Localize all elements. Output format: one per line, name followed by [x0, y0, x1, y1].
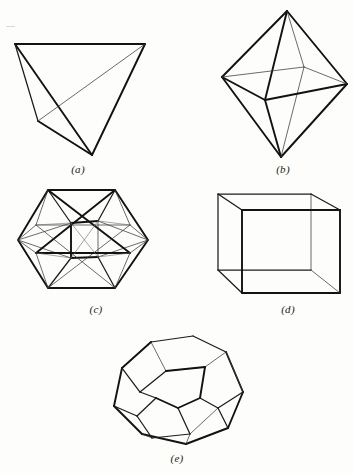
tetrahedron-edges — [15, 44, 145, 155]
caption-octahedron: (b) — [263, 163, 303, 175]
figure-cube — [208, 188, 353, 303]
figure-icosahedron — [12, 183, 162, 298]
figure-dodecahedron — [100, 330, 255, 450]
figure-octahedron — [205, 5, 353, 165]
cube-edges — [218, 194, 340, 293]
icosahedron-edges — [18, 190, 148, 288]
dodecahedron-edges — [114, 336, 243, 444]
caption-cube: (d) — [268, 303, 308, 315]
caption-tetrahedron: (a) — [58, 163, 98, 175]
caption-icosahedron: (c) — [76, 303, 116, 315]
scan-artifact — [6, 26, 15, 27]
octahedron-edges — [222, 11, 347, 157]
caption-dodecahedron: (e) — [157, 452, 197, 464]
figure-tetrahedron — [0, 30, 170, 165]
figure-plate: (a) (b) — [0, 0, 353, 473]
